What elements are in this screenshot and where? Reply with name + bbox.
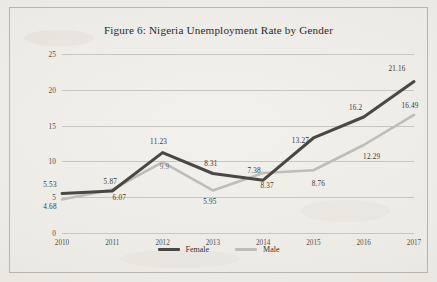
series-line-female (62, 81, 414, 193)
gridline (62, 233, 414, 234)
data-label-female-2011: 5.87 (104, 178, 117, 186)
data-label-male-2012: 9.9 (160, 163, 170, 171)
data-label-female-2016: 16.2 (349, 104, 362, 112)
data-label-male-2013: 5.95 (203, 198, 216, 206)
y-axis-tick-label: 0 (52, 229, 56, 238)
data-label-male-2011: 6.07 (113, 194, 126, 202)
figure-plate: Figure 6: Nigeria Unemployment Rate by G… (9, 7, 428, 273)
legend-label-male: Male (263, 245, 279, 254)
chart-legend: FemaleMale (10, 245, 427, 254)
y-axis-tick-label: 5 (52, 193, 56, 202)
y-axis-tick-label: 25 (49, 50, 56, 59)
data-label-male-2015: 8.76 (312, 180, 325, 188)
data-label-female-2012: 11.23 (150, 138, 167, 146)
data-label-female-2017: 21.16 (388, 65, 405, 73)
legend-swatch-female (158, 248, 180, 251)
series-line-male (62, 115, 414, 200)
chart-plot-area: 0510152025 20102011201220132014201520162… (62, 54, 414, 233)
y-axis-tick-label: 20 (49, 85, 56, 94)
figure-title: Figure 6: Nigeria Unemployment Rate by G… (10, 24, 427, 36)
data-label-male-2010: 4.68 (43, 203, 56, 211)
legend-swatch-male (235, 248, 257, 251)
data-label-male-2014: 8.37 (260, 182, 273, 190)
series-lines (62, 54, 414, 233)
legend-label-female: Female (186, 245, 210, 254)
data-label-male-2016: 12.29 (363, 153, 380, 161)
y-axis-tick-label: 15 (49, 121, 56, 130)
data-label-female-2013: 8.31 (204, 160, 217, 168)
data-label-female-2010: 5.53 (43, 181, 56, 189)
legend-item-male: Male (235, 245, 279, 254)
scanned-page: Figure 6: Nigeria Unemployment Rate by G… (0, 0, 437, 282)
data-label-female-2014: 7.38 (247, 167, 260, 175)
data-label-male-2017: 16.49 (401, 102, 418, 110)
legend-item-female: Female (158, 245, 210, 254)
data-label-female-2015: 13.27 (292, 137, 309, 145)
y-axis-tick-label: 10 (49, 157, 56, 166)
